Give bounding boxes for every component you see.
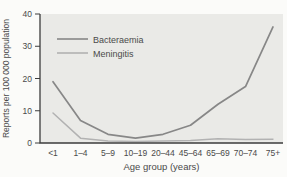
y-tick-label: 0: [27, 138, 32, 148]
x-tick-label: 45–64: [179, 148, 203, 158]
x-axis-label: Age group (years): [123, 161, 199, 172]
x-tick-label: 70–74: [234, 148, 258, 158]
x-tick-label: 75+: [266, 148, 280, 158]
figure: 010203040 <11–45–910–1920–4445–6465–6970…: [0, 0, 287, 177]
y-tick-label: 10: [23, 106, 33, 116]
x-axis-tick-labels: <11–45–910–1920–4445–6465–6970–7475+: [48, 148, 280, 158]
x-tick-label: 10–19: [124, 148, 148, 158]
plot-area: [40, 14, 283, 143]
legend-label-meningitis: Meningitis: [93, 49, 134, 59]
x-tick-label: 5–9: [101, 148, 115, 158]
y-tick-label: 20: [23, 74, 33, 84]
x-tick-label: <1: [48, 148, 58, 158]
y-axis-label: Reports per 100 000 population: [1, 19, 11, 138]
x-tick-label: 1–4: [73, 148, 87, 158]
y-axis-ticks: 010203040: [23, 9, 40, 148]
y-tick-label: 30: [23, 41, 33, 51]
y-tick-label: 40: [23, 9, 33, 19]
x-tick-label: 65–69: [206, 148, 230, 158]
legend-label-bacteraemia: Bacteraemia: [93, 35, 144, 45]
x-tick-label: 20–44: [151, 148, 175, 158]
line-chart: 010203040 <11–45–910–1920–4445–6465–6970…: [0, 0, 287, 177]
